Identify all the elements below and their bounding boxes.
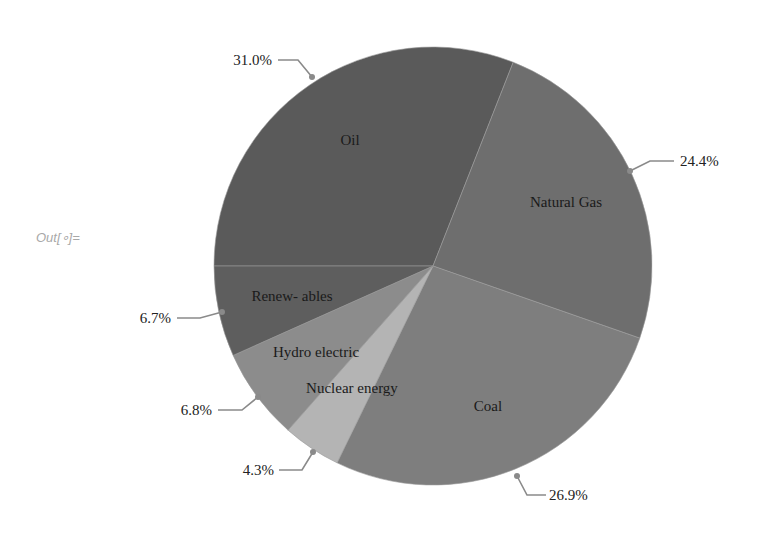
leader-dot-hydro — [255, 394, 261, 400]
pie-chart: Oil Natural Gas Coal Nuclear energy Hydr… — [0, 0, 762, 535]
leader-dot-renewables — [219, 309, 225, 315]
leader-line-hydro — [218, 397, 258, 410]
leader-line-renewables — [177, 312, 222, 318]
pct-label-oil: 31.0% — [233, 52, 272, 68]
slice-label-natural-gas: Natural Gas — [530, 194, 602, 210]
leader-dot-nuclear — [310, 449, 316, 455]
pct-label-renewables: 6.7% — [140, 310, 171, 326]
pie-slices — [214, 47, 652, 485]
leader-dot-oil — [309, 74, 315, 80]
slice-label-oil: Oil — [340, 132, 359, 148]
pct-label-hydro: 6.8% — [181, 402, 212, 418]
pct-label-natural-gas: 24.4% — [680, 153, 719, 169]
slice-label-renewables: Renew- ables — [251, 288, 332, 304]
leader-line-nuclear — [279, 452, 313, 470]
leader-dot-coal — [514, 473, 520, 479]
pct-label-nuclear: 4.3% — [243, 462, 274, 478]
leader-line-natural-gas — [630, 161, 674, 171]
leader-dot-natural-gas — [627, 168, 633, 174]
slice-label-hydro-electric: Hydro electric — [273, 344, 360, 360]
leader-line-coal — [517, 476, 546, 495]
pct-label-coal: 26.9% — [549, 487, 588, 503]
slice-label-nuclear-energy: Nuclear energy — [306, 380, 398, 396]
leader-line-oil — [278, 60, 312, 77]
slice-label-coal: Coal — [474, 398, 502, 414]
